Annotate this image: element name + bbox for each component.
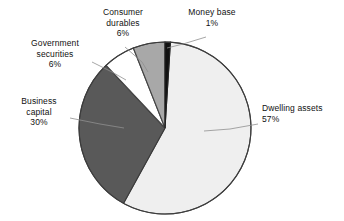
pie-chart-figure: Consumer durables 6% Money base 1% Gover…	[0, 0, 344, 221]
pie-label-consumer-durables-line2: durables	[86, 18, 160, 29]
pie-label-government-securities-line2: securities	[14, 49, 96, 60]
pie-label-consumer-durables-value: 6%	[86, 28, 160, 39]
pie-label-business-capital-value: 30%	[8, 117, 70, 128]
pie-label-money-base-line1: Money base	[176, 7, 248, 18]
pie-label-government-securities: Government securities 6%	[14, 38, 96, 70]
pie-label-consumer-durables: Consumer durables 6%	[86, 7, 160, 39]
pie-label-money-base: Money base 1%	[176, 7, 248, 28]
pie-label-government-securities-line1: Government	[14, 38, 96, 49]
pie-label-dwelling-assets-line1: Dwelling assets	[262, 103, 344, 114]
pie-label-business-capital-line1: Business	[8, 96, 70, 107]
pie-label-dwelling-assets: Dwelling assets 57%	[262, 103, 344, 124]
pie-label-government-securities-value: 6%	[14, 59, 96, 70]
pie-label-money-base-value: 1%	[176, 18, 248, 29]
pie-label-business-capital: Business capital 30%	[8, 96, 70, 128]
pie-label-consumer-durables-line1: Consumer	[86, 7, 160, 18]
pie-label-business-capital-line2: capital	[8, 107, 70, 118]
pie-label-dwelling-assets-value: 57%	[262, 114, 344, 125]
